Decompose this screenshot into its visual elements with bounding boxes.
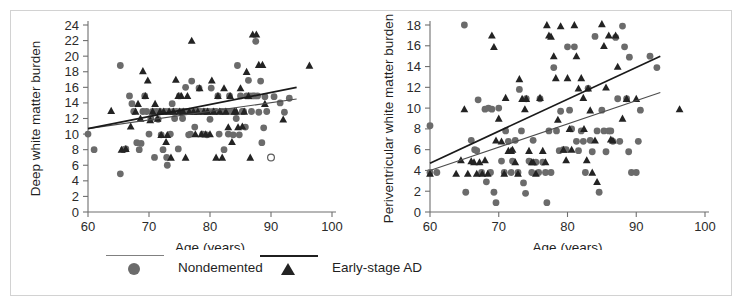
data-point <box>182 84 189 91</box>
data-point <box>502 94 510 101</box>
data-point <box>188 78 195 85</box>
svg-text:0: 0 <box>414 205 421 220</box>
data-point <box>234 62 241 69</box>
data-point <box>263 108 270 115</box>
data-point <box>246 154 254 161</box>
data-point <box>464 170 472 177</box>
data-point <box>252 38 259 45</box>
data-point <box>579 94 587 101</box>
regression-line <box>430 93 660 171</box>
data-point <box>589 148 596 155</box>
data-point <box>508 169 515 176</box>
data-point <box>488 31 496 38</box>
svg-text:70: 70 <box>492 219 506 234</box>
svg-text:8: 8 <box>72 142 79 157</box>
data-point <box>169 100 176 107</box>
data-point <box>554 116 562 123</box>
data-point <box>107 107 115 114</box>
legend-label-nondemented: Nondemented <box>178 260 263 275</box>
data-point <box>260 124 267 131</box>
data-point <box>593 178 601 185</box>
data-point <box>596 189 603 196</box>
legend-key-early-stage-ad <box>258 248 320 282</box>
data-point <box>575 84 583 91</box>
data-point <box>600 42 608 49</box>
data-point <box>233 115 240 122</box>
data-point <box>281 109 288 116</box>
chart-panel-periventricular-white-matter: 02468101214161860708090100Age (years)Per… <box>371 0 742 250</box>
data-point <box>492 136 500 143</box>
data-point <box>427 122 434 129</box>
data-point <box>490 43 498 50</box>
svg-text:6: 6 <box>414 142 421 157</box>
svg-text:6: 6 <box>72 158 79 173</box>
data-point <box>208 76 216 83</box>
data-point <box>520 180 527 187</box>
data-point <box>117 62 124 69</box>
data-point <box>248 108 255 115</box>
data-point <box>515 75 523 82</box>
data-point <box>557 22 565 29</box>
data-point <box>626 54 633 61</box>
data-point <box>475 96 482 103</box>
triangle-marker-icon <box>281 263 295 275</box>
data-point <box>452 170 460 177</box>
data-point <box>564 43 571 50</box>
data-point <box>621 43 628 50</box>
data-point <box>583 156 591 163</box>
svg-text:90: 90 <box>629 219 643 234</box>
data-point <box>117 170 124 177</box>
data-point <box>566 107 573 114</box>
data-point <box>146 131 153 138</box>
data-point <box>539 147 547 154</box>
data-point <box>85 131 92 138</box>
data-point <box>602 83 610 90</box>
svg-text:100: 100 <box>694 219 716 234</box>
data-point <box>481 156 489 163</box>
data-point <box>575 147 582 154</box>
data-point <box>218 154 226 161</box>
data-point <box>625 148 632 155</box>
legend-line-early-stage-ad <box>260 255 318 257</box>
data-point <box>129 100 136 107</box>
regression-line <box>88 87 297 128</box>
svg-text:80: 80 <box>203 219 217 234</box>
data-point <box>460 105 468 112</box>
data-point <box>433 169 440 176</box>
data-point <box>525 147 533 154</box>
data-point <box>306 62 314 69</box>
data-point <box>151 154 158 161</box>
svg-text:22: 22 <box>65 33 79 48</box>
circle-marker-icon <box>128 263 140 275</box>
data-point <box>603 148 610 155</box>
data-point <box>257 78 264 85</box>
svg-text:4: 4 <box>72 173 79 188</box>
data-point <box>577 74 585 81</box>
data-point <box>271 93 278 100</box>
legend-label-early-stage-ad: Early-stage AD <box>332 260 422 275</box>
data-point <box>619 23 626 30</box>
data-point <box>221 146 228 153</box>
data-point <box>179 115 186 122</box>
data-point <box>138 140 145 147</box>
data-point <box>493 199 500 206</box>
svg-text:16: 16 <box>407 38 421 53</box>
svg-text:18: 18 <box>407 18 421 33</box>
svg-text:0: 0 <box>72 205 79 220</box>
data-point <box>136 146 143 153</box>
data-point <box>598 20 606 27</box>
data-point <box>522 190 529 197</box>
data-point <box>461 22 468 29</box>
svg-text:10: 10 <box>407 101 421 116</box>
scatter-plot-figure: 02468101214161820222460708090100Age (yea… <box>0 0 742 307</box>
data-point <box>518 128 525 135</box>
data-point <box>516 86 523 93</box>
data-point <box>607 128 614 135</box>
periventricular-white-matter-plot: 02468101214161860708090100Age (years)Per… <box>371 0 742 250</box>
svg-text:14: 14 <box>407 59 421 74</box>
data-point <box>633 169 640 176</box>
data-point <box>614 95 621 102</box>
data-point <box>483 178 490 185</box>
data-point <box>594 128 601 135</box>
data-point <box>220 84 228 91</box>
